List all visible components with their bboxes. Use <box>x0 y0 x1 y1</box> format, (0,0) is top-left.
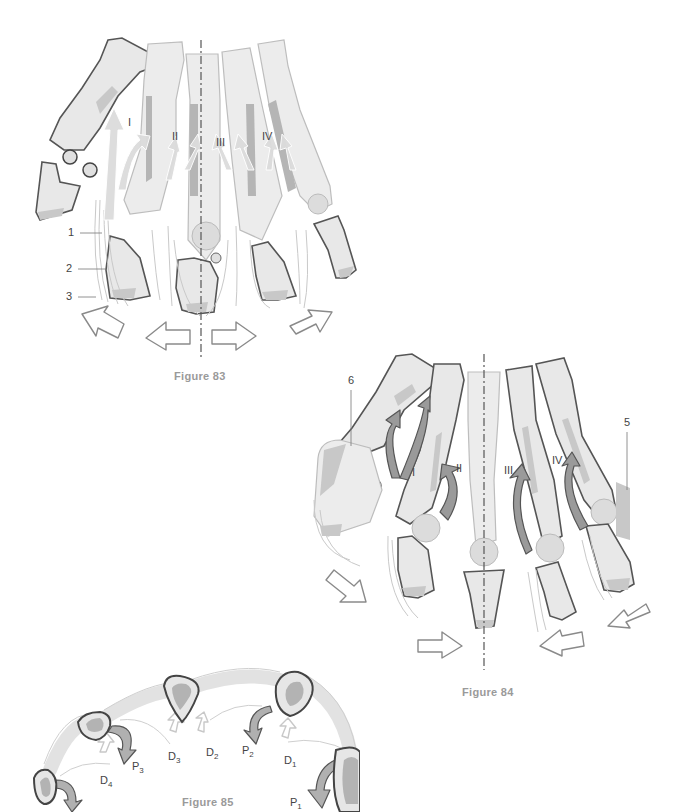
digit-label-iii: III <box>504 464 513 476</box>
label-d3: D3 <box>168 750 181 765</box>
digit-label-iii: III <box>216 136 225 148</box>
callout-5: 5 <box>624 416 630 428</box>
label-p1: P1 <box>290 796 302 811</box>
digit-label-ii: II <box>456 462 462 474</box>
figure-84-illustration: I II III IV 5 6 <box>300 340 689 680</box>
arrow-right-icon <box>212 322 256 350</box>
label-p3: P3 <box>132 760 144 775</box>
figure-83-illustration: I II III IV 1 2 3 <box>0 0 380 360</box>
callout-2: 2 <box>66 262 72 274</box>
digit-label-ii: II <box>172 130 178 142</box>
digit-label-i: I <box>412 466 415 478</box>
arrow-up-left-icon <box>82 306 124 338</box>
figure-85-illustration: D4 P3 D3 D2 P2 D1 P1 <box>0 640 360 812</box>
arrow-right-icon <box>418 632 462 658</box>
callout-1: 1 <box>68 226 74 238</box>
arrow-left-icon <box>146 322 190 350</box>
arrow-down-left-icon <box>608 604 650 628</box>
callout-6: 6 <box>348 374 354 386</box>
digit-label-iv: IV <box>262 130 273 142</box>
digit-bones <box>36 38 356 278</box>
figure-85-caption: Figure 85 <box>182 796 234 808</box>
callout-3: 3 <box>66 290 72 302</box>
arrow-up-right-icon <box>290 310 332 334</box>
arrow-left-icon <box>540 630 584 656</box>
label-d2: D2 <box>206 746 219 761</box>
label-d4: D4 <box>100 774 113 789</box>
arrow-down-right-icon <box>326 570 366 602</box>
digit-label-i: I <box>128 116 131 128</box>
figure-84-caption: Figure 84 <box>462 686 514 698</box>
label-p2: P2 <box>242 744 254 759</box>
figure-83-caption: Figure 83 <box>174 370 226 382</box>
label-d1: D1 <box>284 754 297 769</box>
digit-label-iv: IV <box>552 454 563 466</box>
